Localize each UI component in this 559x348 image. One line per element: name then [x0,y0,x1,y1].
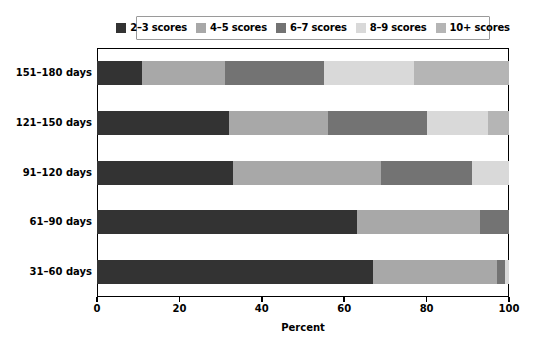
bar-segment[interactable] [97,210,357,234]
x-axis-tick [343,297,345,302]
legend-swatch-icon [276,23,286,33]
legend-label: 2–3 scores [130,23,187,33]
bar-segment[interactable] [357,210,481,234]
category-label: 151–180 days [0,67,92,79]
bar-segment[interactable] [324,61,415,85]
bar-segment[interactable] [414,61,509,85]
bar-row [97,210,509,234]
x-axis-tick [426,297,428,302]
x-axis-tick-label: 100 [499,303,520,315]
bar-segment[interactable] [373,260,497,284]
category-axis: 151–180 days121–150 days91–120 days61–90… [0,48,92,297]
x-axis-title: Percent [97,322,509,334]
x-axis-tick-label: 60 [337,303,351,315]
legend-swatch-icon [356,23,366,33]
bar-segment[interactable] [480,210,509,234]
bar-segment[interactable] [97,161,233,185]
bar-row [97,111,509,135]
legend-swatch-icon [436,23,446,33]
bar-segment[interactable] [488,111,509,135]
category-label: 61–90 days [0,216,92,228]
legend-label: 10+ scores [450,23,510,33]
legend-swatch-icon [116,23,126,33]
x-axis-tick-label: 0 [94,303,101,315]
bar-segment[interactable] [97,260,373,284]
legend-item[interactable]: 4–5 scores [196,23,267,33]
bar-segment[interactable] [497,260,505,284]
legend-label: 8–9 scores [370,23,427,33]
legend-label: 4–5 scores [210,23,267,33]
legend-label: 6–7 scores [290,23,347,33]
category-label: 121–150 days [0,117,92,129]
bar-segment[interactable] [97,61,142,85]
bar-segment[interactable] [505,260,509,284]
bar-segment[interactable] [97,111,229,135]
bar-segment[interactable] [328,111,427,135]
bar-segment[interactable] [229,111,328,135]
bar-segment[interactable] [427,111,489,135]
x-axis-tick [261,297,263,302]
bar-row [97,61,509,85]
x-axis-tick-label: 40 [255,303,269,315]
bar-segment[interactable] [472,161,509,185]
plot-area [97,48,509,297]
legend-item[interactable]: 10+ scores [436,23,510,33]
x-axis-tick [508,297,510,302]
bar-segment[interactable] [381,161,472,185]
chart-legend: 2–3 scores4–5 scores6–7 scores8–9 scores… [136,16,490,40]
legend-swatch-icon [196,23,206,33]
category-label: 31–60 days [0,266,92,278]
bar-segment[interactable] [142,61,224,85]
bar-segment[interactable] [233,161,381,185]
x-axis-tick-label: 20 [172,303,186,315]
x-axis-tick-label: 80 [420,303,434,315]
x-axis-tick [179,297,181,302]
legend-item[interactable]: 8–9 scores [356,23,427,33]
x-axis-tick [96,297,98,302]
category-label: 91–120 days [0,167,92,179]
bar-segment[interactable] [225,61,324,85]
bar-row [97,161,509,185]
legend-item[interactable]: 2–3 scores [116,23,187,33]
bar-row [97,260,509,284]
legend-item[interactable]: 6–7 scores [276,23,347,33]
chart-figure: 2–3 scores4–5 scores6–7 scores8–9 scores… [0,0,559,348]
